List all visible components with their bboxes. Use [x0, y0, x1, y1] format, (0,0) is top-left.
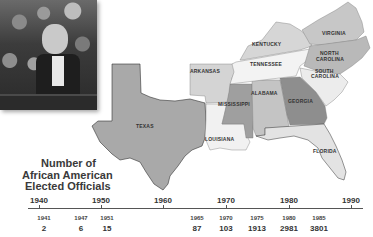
- decade-1990: 1990: [342, 196, 360, 205]
- title-line-1: Number of: [22, 158, 113, 170]
- svg-text:LOUISIANA: LOUISIANA: [205, 136, 234, 142]
- tick-1980: [289, 205, 290, 209]
- state-virginia: [302, 2, 364, 45]
- svg-text:CAROLINA: CAROLINA: [316, 56, 344, 62]
- official-count: 1913: [248, 224, 266, 233]
- svg-text:TENNESSEE: TENNESSEE: [250, 61, 283, 67]
- svg-text:TEXAS: TEXAS: [136, 123, 154, 129]
- southern-states-map: VIRGINIA KENTUCKY NORTH CAROLINA TENNESS…: [0, 0, 373, 237]
- decade-1960: 1960: [154, 196, 172, 205]
- svg-text:MISSISSIPPI: MISSISSIPPI: [218, 101, 250, 107]
- official-count: 15: [103, 224, 112, 233]
- svg-text:GEORGIA: GEORGIA: [288, 98, 313, 104]
- svg-text:ALABAMA: ALABAMA: [251, 90, 278, 96]
- decade-1950: 1950: [92, 196, 110, 205]
- svg-text:ARKANSAS: ARKANSAS: [190, 68, 220, 74]
- official-count: 3801: [310, 224, 328, 233]
- tick-1950: [101, 205, 102, 209]
- decade-1970: 1970: [217, 196, 235, 205]
- official-count: 2: [42, 224, 46, 233]
- chart-title: Number of African American Elected Offic…: [22, 158, 113, 193]
- official-count: 103: [219, 224, 232, 233]
- svg-text:KENTUCKY: KENTUCKY: [252, 41, 282, 47]
- year-label: 1980: [282, 215, 295, 221]
- year-label: 1941: [37, 215, 50, 221]
- year-label: 1970: [219, 215, 232, 221]
- year-label: 1947: [74, 215, 87, 221]
- svg-text:VIRGINIA: VIRGINIA: [322, 30, 346, 36]
- year-label: 1951: [100, 215, 113, 221]
- official-count: 87: [193, 224, 202, 233]
- tick-1970: [226, 205, 227, 209]
- tick-1940: [39, 205, 40, 209]
- tick-1960: [163, 205, 164, 209]
- svg-text:FLORIDA: FLORIDA: [313, 148, 337, 154]
- decade-1940: 1940: [30, 196, 48, 205]
- year-label: 1975: [250, 215, 263, 221]
- tick-1990: [351, 205, 352, 209]
- year-label: 1985: [312, 215, 325, 221]
- year-label: 1965: [190, 215, 203, 221]
- title-line-3: Elected Officials: [22, 181, 113, 193]
- official-count: 6: [79, 224, 83, 233]
- decade-1980: 1980: [280, 196, 298, 205]
- official-count: 2981: [280, 224, 298, 233]
- timeline-axis: [28, 208, 363, 209]
- svg-text:CAROLINA: CAROLINA: [311, 73, 339, 79]
